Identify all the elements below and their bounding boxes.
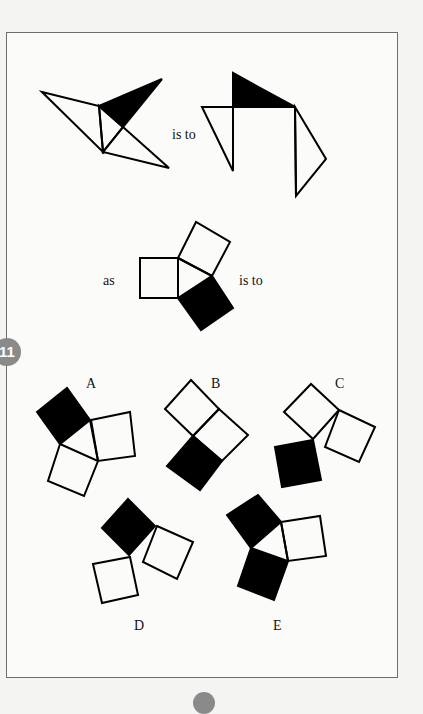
- option-d-label[interactable]: D: [134, 618, 144, 633]
- option-c-label[interactable]: C: [335, 376, 344, 391]
- option-b-figure[interactable]: [165, 380, 248, 490]
- option-a-label[interactable]: A: [86, 376, 97, 391]
- option-e-figure[interactable]: [227, 495, 326, 600]
- option-b-label[interactable]: B: [211, 376, 220, 391]
- option-c-figure[interactable]: [275, 384, 375, 487]
- connector-is-to-1: is to: [172, 127, 196, 142]
- option-a-figure[interactable]: [37, 388, 135, 496]
- connector-as: as: [103, 273, 115, 288]
- option-d-figure[interactable]: [93, 499, 193, 603]
- option-e-label[interactable]: E: [273, 618, 282, 633]
- figure-1-triangles: [42, 79, 169, 168]
- connector-is-to-2: is to: [239, 273, 263, 288]
- figure-3-squares: [140, 222, 233, 330]
- figure-2-triangles: [202, 73, 326, 196]
